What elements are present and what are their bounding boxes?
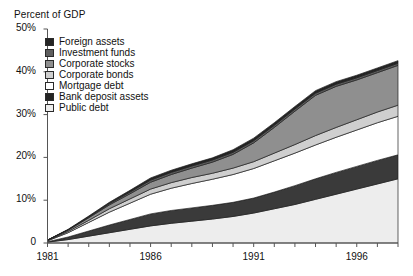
y-axis-tick-label: 0 xyxy=(2,236,36,247)
legend-item-label: Bank deposit assets xyxy=(59,91,149,102)
legend-item-label: Investment funds xyxy=(59,47,135,58)
legend-item: Public debt xyxy=(45,102,149,113)
legend-item-label: Mortgage debt xyxy=(59,80,124,91)
legend-item-label: Corporate stocks xyxy=(59,58,135,69)
legend-item-label: Public debt xyxy=(59,102,108,113)
legend-item-label: Foreign assets xyxy=(59,36,125,47)
legend-item: Corporate bonds xyxy=(45,69,149,80)
legend-swatch-icon xyxy=(45,60,54,68)
legend-item: Investment funds xyxy=(45,47,149,58)
legend-swatch-icon xyxy=(45,49,54,57)
y-axis-tick-label: 50% xyxy=(2,22,36,33)
legend-item: Corporate stocks xyxy=(45,58,149,69)
y-axis-tick-label: 10% xyxy=(2,193,36,204)
x-axis-tick-label: 1991 xyxy=(234,251,274,262)
legend-item-label: Corporate bonds xyxy=(59,69,134,80)
chart-container: Percent of GDP Foreign assetsInvestment … xyxy=(0,0,413,276)
legend-swatch-icon xyxy=(45,71,54,79)
chart-legend: Foreign assetsInvestment fundsCorporate … xyxy=(45,36,149,113)
legend-item: Bank deposit assets xyxy=(45,91,149,102)
y-axis-tick-label: 30% xyxy=(2,108,36,119)
legend-swatch-icon xyxy=(45,93,54,101)
legend-swatch-icon xyxy=(45,104,54,112)
legend-item: Mortgage debt xyxy=(45,80,149,91)
y-axis-tick-label: 40% xyxy=(2,65,36,76)
x-axis-tick-label: 1986 xyxy=(131,251,171,262)
legend-swatch-icon xyxy=(45,38,54,46)
x-axis-tick-label: 1981 xyxy=(28,251,68,262)
y-axis-tick-label: 20% xyxy=(2,150,36,161)
legend-item: Foreign assets xyxy=(45,36,149,47)
legend-swatch-icon xyxy=(45,82,54,90)
x-axis-tick-label: 1996 xyxy=(337,251,377,262)
